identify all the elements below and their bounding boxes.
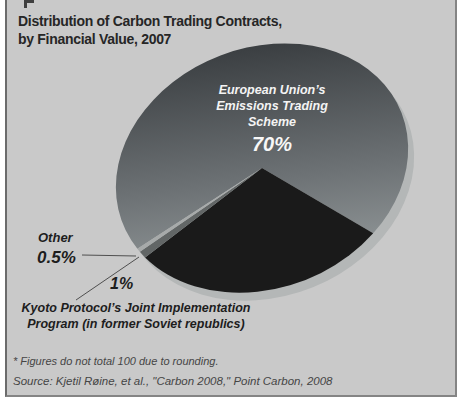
other-slice-value: 0.5% xyxy=(37,248,76,268)
leader-line-other xyxy=(82,255,136,256)
eu-label-line3: Scheme xyxy=(172,114,372,130)
figure-page: Distribution of Carbon Trading Contracts… xyxy=(0,0,463,406)
eu-label-line2: Emissions Trading xyxy=(172,98,372,114)
other-slice-label: Other xyxy=(38,230,73,245)
eu-ets-slice-label: European Union’s Emissions Trading Schem… xyxy=(172,82,372,130)
figure-source: Source: Kjetil Røine, et al., "Carbon 20… xyxy=(13,375,332,387)
kyoto-slice-value: 1% xyxy=(110,275,133,293)
kyoto-slice-label: Kyoto Protocol’s Joint Implementation Pr… xyxy=(10,301,262,332)
pie-chart xyxy=(0,0,463,406)
eu-ets-slice-value: 70% xyxy=(172,133,372,156)
figure-title-line1: Distribution of Carbon Trading Contracts… xyxy=(18,12,318,30)
eu-label-line1: European Union’s xyxy=(172,82,372,98)
kyoto-label-line2: Program (in former Soviet republics) xyxy=(10,317,262,333)
kyoto-label-line1: Kyoto Protocol’s Joint Implementation xyxy=(10,301,262,317)
figure-title-line2: by Financial Value, 2007 xyxy=(18,30,318,48)
figure-footnote: * Figures do not total 100 due to roundi… xyxy=(13,355,218,367)
figure-title: Distribution of Carbon Trading Contracts… xyxy=(18,12,318,48)
